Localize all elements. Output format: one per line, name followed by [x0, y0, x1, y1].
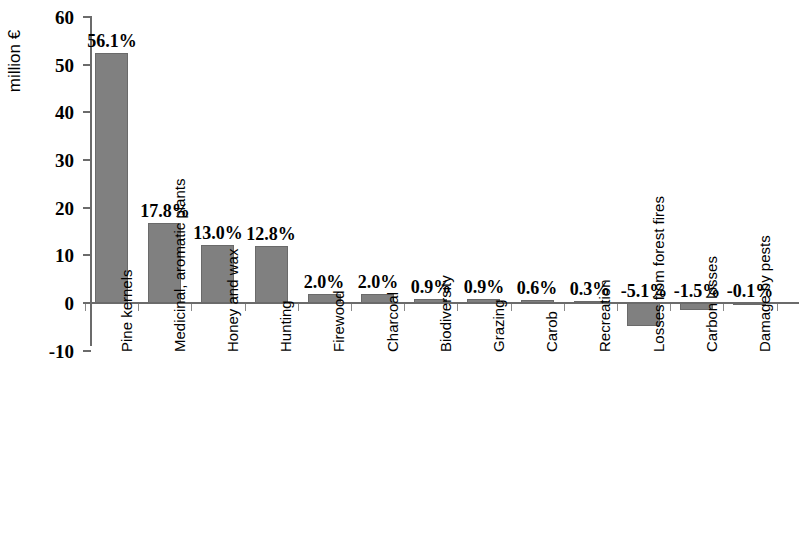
bar-value-label: 2.0%: [348, 273, 408, 291]
x-axis-category-label: Hunting: [277, 300, 294, 352]
x-axis-tick: [723, 304, 724, 311]
x-axis-tick: [404, 304, 405, 311]
y-axis-tick-label: 30: [30, 151, 74, 170]
x-axis-tick: [564, 304, 565, 311]
y-axis-tick-label: 0: [30, 294, 74, 313]
y-axis-tick-label: 40: [30, 103, 74, 122]
y-axis-tick: [83, 350, 91, 352]
x-axis-category-label: Carbon losses: [703, 256, 720, 352]
x-axis-tick: [617, 304, 618, 311]
x-axis-category-label: Firewood: [330, 290, 347, 352]
bar-value-label: 0.9%: [454, 278, 514, 296]
y-axis-tick: [83, 207, 91, 209]
bar: [255, 246, 288, 303]
x-axis-tick: [511, 304, 512, 311]
x-axis-tick: [457, 304, 458, 311]
bar-value-label: 12.8%: [241, 225, 301, 243]
x-axis-category-label: Carob: [543, 311, 560, 352]
x-axis-category-label: Charcoal: [384, 292, 401, 352]
bar-value-label: 56.1%: [82, 32, 142, 50]
x-axis-category-label: Honey and wax: [224, 249, 241, 352]
y-axis-tick-label: 60: [30, 8, 74, 27]
x-axis-tick: [85, 304, 86, 311]
y-axis-title: million €: [2, 0, 28, 126]
x-axis-tick: [298, 304, 299, 311]
x-axis-category-label: Pine kernels: [118, 269, 135, 352]
y-axis-tick: [83, 254, 91, 256]
x-axis-tick: [351, 304, 352, 311]
y-axis-tick: [83, 16, 91, 18]
x-axis-category-label: Losses from forest fires: [650, 196, 667, 352]
x-axis-tick: [138, 304, 139, 311]
y-axis-tick: [83, 111, 91, 113]
bar-value-label: 2.0%: [294, 273, 354, 291]
bar-chart: million € 6050403020100-10 56.1%17.8%13.…: [0, 0, 807, 537]
x-axis-tick: [245, 304, 246, 311]
x-axis-category-label: Damage by pests: [756, 235, 773, 352]
x-axis-tick: [777, 304, 778, 311]
x-axis-category-label: Medicinal, aromatic plants: [171, 179, 188, 352]
y-axis-tick-label: 10: [30, 246, 74, 265]
y-axis-tick: [83, 64, 91, 66]
bar: [95, 53, 128, 303]
x-axis-category-label: Biodiversity: [437, 275, 454, 352]
y-axis-tick-label: 20: [30, 199, 74, 218]
y-axis-tick-label: -10: [30, 342, 74, 361]
bar: [521, 300, 554, 303]
x-axis-tick: [670, 304, 671, 311]
bar-value-label: 0.6%: [507, 279, 567, 297]
bar-value-label: 13.0%: [188, 224, 248, 242]
x-axis-category-label: Recreation: [596, 279, 613, 352]
y-axis-tick: [83, 159, 91, 161]
x-axis-category-label: Grazing: [490, 299, 507, 352]
x-axis-tick: [191, 304, 192, 311]
y-axis-tick-label: 50: [30, 56, 74, 75]
